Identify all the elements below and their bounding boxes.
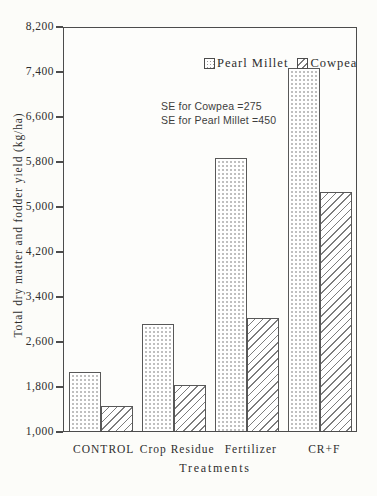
y-tick [56,26,63,27]
y-tick-label: 5,000 [0,200,54,212]
bar-cowpea-crop-residue [174,385,206,431]
y-tick [56,386,63,387]
y-tick [56,431,63,432]
bar-cowpea-control [101,406,133,431]
bar-group-fertilizer [210,28,283,431]
y-tick [56,206,63,207]
y-tick-label: 1,800 [0,380,54,392]
bar-cowpea-cr-f [320,192,352,431]
x-axis-label-fertilizer: Fertilizer [225,443,277,455]
se-cowpea-text: SE for Cowpea =275 [161,99,276,113]
bar-cowpea-fertilizer [247,318,279,431]
y-tick-label: 1,000 [0,425,54,437]
bar-group-crop-residue [137,28,210,431]
y-tick [56,161,63,162]
bar-pearl-millet-cr-f [288,68,320,431]
y-tick-label: 5,800 [0,155,54,167]
x-axis-title: Treatments [179,461,251,476]
bar-pearl-millet-crop-residue [142,324,174,431]
y-tick [56,116,63,117]
legend: Pearl Millet Cowpea [204,56,357,71]
bar-pearl-millet-fertilizer [215,158,247,431]
figure: { "chart_data": { "type": "bar", "catego… [0,0,377,496]
cowpea-swatch-icon [297,58,308,69]
legend-label-pearl-millet: Pearl Millet [217,56,288,71]
y-tick-label: 7,400 [0,65,54,77]
legend-item-pearl-millet: Pearl Millet [204,56,288,71]
y-tick [56,341,63,342]
y-tick-label: 6,600 [0,110,54,122]
pearl-millet-swatch-icon [204,58,215,69]
legend-label-cowpea: Cowpea [310,56,357,71]
x-axis-label-control: CONTROL [73,443,134,455]
y-tick-label: 4,200 [0,245,54,257]
se-annotation: SE for Cowpea =275 SE for Pearl Millet =… [161,99,276,127]
plot-area: Pearl Millet Cowpea SE for Cowpea =275 S… [63,27,357,432]
bar-pearl-millet-control [69,372,101,431]
x-axis-label-crop-residue: Crop Residue [140,443,215,455]
bars-container [64,28,356,431]
y-tick [56,251,63,252]
legend-item-cowpea: Cowpea [297,56,357,71]
bar-group-cr-f [283,28,356,431]
bar-group-control [64,28,137,431]
y-tick [56,71,63,72]
y-tick-label: 8,200 [0,20,54,32]
x-axis-label-cr-f: CR+F [308,443,340,455]
y-tick-label: 2,600 [0,335,54,347]
y-tick [56,296,63,297]
y-tick-label: 3,400 [0,290,54,302]
se-pearl-millet-text: SE for Pearl Millet =450 [161,113,276,127]
